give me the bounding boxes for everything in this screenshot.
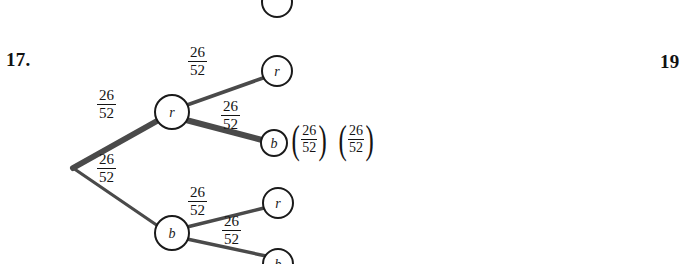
edge-label-b-to-r-numerator: 26 (188, 185, 207, 202)
edge-label-b-to-b-denominator: 52 (222, 231, 241, 247)
product-factor-1-denominator: 52 (301, 140, 317, 155)
node-top-clipped-circle (262, 0, 292, 17)
node-level2-rb-label: b (271, 136, 278, 151)
edge-label-root-to-r: 26 52 (97, 88, 116, 121)
edge-label-b-to-b-numerator: 26 (222, 214, 241, 231)
node-level1-r-label: r (169, 105, 175, 120)
edge-label-b-to-r: 26 52 (188, 185, 207, 218)
product-factor-2: 26 52 (348, 124, 364, 155)
open-paren-1: ( (292, 124, 300, 155)
close-paren-1: ) (319, 124, 327, 155)
node-level2-br-label: r (275, 196, 281, 211)
product-factor-1: 26 52 (301, 124, 317, 155)
edge-label-r-to-b: 26 52 (221, 99, 240, 132)
edge-label-root-to-b-numerator: 26 (97, 152, 116, 169)
node-level2-bb-label: b (275, 257, 282, 264)
node-level1-b-label: b (169, 226, 176, 241)
node-level2-rr-label: r (274, 64, 280, 79)
open-paren-2: ( (338, 124, 346, 155)
edge-label-r-to-r-numerator: 26 (188, 45, 207, 62)
edge-label-root-to-b: 26 52 (97, 152, 116, 185)
edge-label-root-to-b-denominator: 52 (97, 169, 116, 185)
close-paren-2: ) (366, 124, 374, 155)
edge-label-r-to-b-denominator: 52 (221, 116, 240, 132)
edge-label-b-to-b: 26 52 (222, 214, 241, 247)
edge-label-r-to-r: 26 52 (188, 45, 207, 78)
product-factor-2-numerator: 26 (348, 124, 364, 140)
edge-label-r-to-r-denominator: 52 (188, 62, 207, 78)
edge-label-root-to-r-numerator: 26 (97, 88, 116, 105)
edge-label-root-to-r-denominator: 52 (97, 105, 116, 121)
product-factor-2-denominator: 52 (348, 140, 364, 155)
outcome-probability-expression: ( 26 52 ) ( 26 52 ) (289, 124, 376, 155)
edge-label-b-to-r-denominator: 52 (188, 202, 207, 218)
product-factor-1-numerator: 26 (301, 124, 317, 140)
edge-label-r-to-b-numerator: 26 (221, 99, 240, 116)
